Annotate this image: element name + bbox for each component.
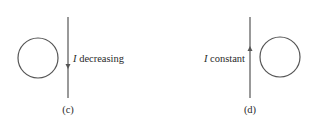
panel-c: I decreasing (c) xyxy=(18,17,125,116)
diagram-canvas: I decreasing (c) I constant (d) xyxy=(0,0,314,125)
caption-d: (d) xyxy=(244,104,257,116)
wire-loop-c xyxy=(18,38,58,78)
current-arrow-up-icon xyxy=(248,46,253,51)
current-label-d: I constant xyxy=(203,53,245,64)
current-label-c: I decreasing xyxy=(72,53,125,64)
wire-loop-d xyxy=(260,37,300,77)
panel-d: I constant (d) xyxy=(203,17,300,116)
caption-c: (c) xyxy=(62,104,74,116)
current-arrow-down-icon xyxy=(66,64,71,69)
